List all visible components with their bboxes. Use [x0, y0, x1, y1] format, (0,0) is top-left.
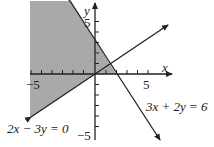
x-axis-label: x	[162, 61, 168, 74]
x-tick-label-5: 5	[143, 78, 150, 91]
line2-equation-label: 2x − 3y = 0	[7, 122, 69, 135]
inequality-graph: y 5 x −5 5 3x + 2y = 6 2x − 3y = 0 −5	[0, 0, 214, 147]
shaded-region	[30, 1, 116, 118]
y-tick-label-neg5: −5	[77, 129, 91, 142]
line1-equation-label: 3x + 2y = 6	[146, 100, 208, 113]
y-tick-label-5: 5	[84, 16, 91, 29]
x-tick-label-neg5: −5	[26, 78, 40, 91]
